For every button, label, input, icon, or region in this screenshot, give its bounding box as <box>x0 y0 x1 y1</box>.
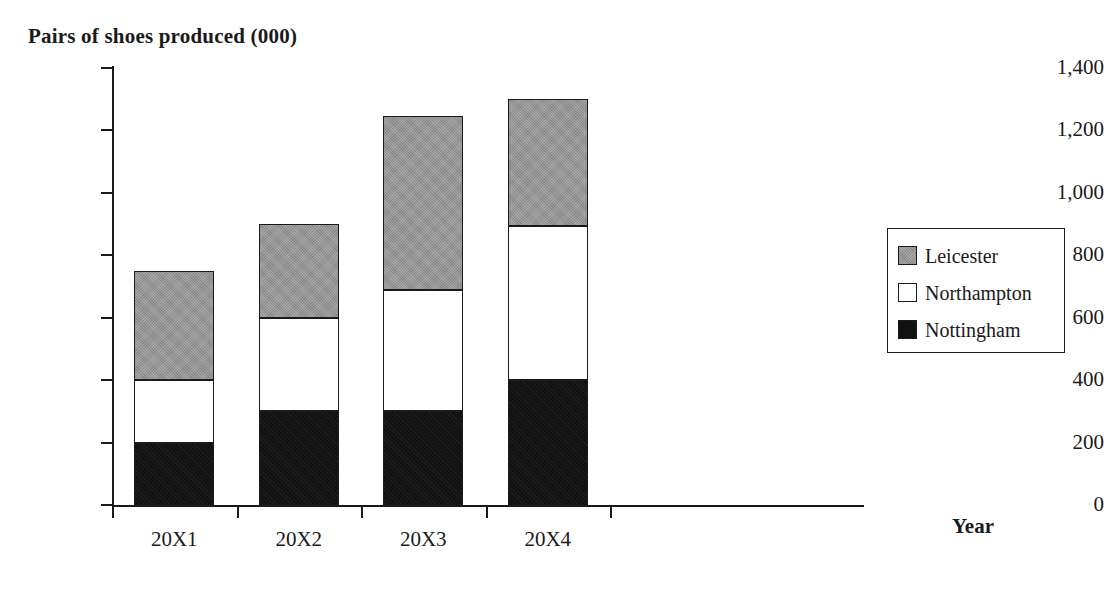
x-axis-tick <box>237 505 239 518</box>
y-axis-tick <box>101 254 112 256</box>
x-axis-tick <box>610 505 612 518</box>
y-axis-tick-label: 1,400 <box>1018 57 1104 78</box>
y-axis-tick-label: 1,200 <box>1018 119 1104 140</box>
bar-segment-leicester[interactable] <box>383 116 463 289</box>
legend-item-nottingham[interactable]: Nottingham <box>898 311 1064 348</box>
legend-item-label: Nottingham <box>925 320 1021 340</box>
x-axis-tick <box>361 505 363 518</box>
y-axis-tick <box>101 129 112 131</box>
y-axis-tick <box>101 504 112 506</box>
bar-stack[interactable] <box>134 68 214 505</box>
bar-segment-northampton[interactable] <box>259 318 339 412</box>
legend-item-label: Northampton <box>925 283 1032 303</box>
bar-segment-leicester[interactable] <box>508 99 588 225</box>
legend-item-label: Leicester <box>925 246 998 266</box>
bar-stack[interactable] <box>508 68 588 505</box>
bar-segment-nottingham[interactable] <box>259 411 339 505</box>
y-axis-tick <box>101 379 112 381</box>
bar-stack[interactable] <box>383 68 463 505</box>
stacked-bar-chart: Pairs of shoes produced (000) 0200400600… <box>0 0 1104 591</box>
y-axis-tick-label: 400 <box>1018 369 1104 390</box>
y-axis-tick <box>101 442 112 444</box>
bar-segment-northampton[interactable] <box>383 290 463 412</box>
x-axis-tick <box>112 505 114 518</box>
x-axis-category-label: 20X3 <box>361 527 486 552</box>
bar-segment-northampton[interactable] <box>134 380 214 442</box>
x-axis-tick <box>486 505 488 518</box>
y-axis-tick-label: 0 <box>1018 494 1104 515</box>
y-axis-tick <box>101 317 112 319</box>
x-axis-line <box>112 505 864 507</box>
x-axis-category-label: 20X1 <box>112 527 237 552</box>
x-axis-title: Year <box>952 514 994 539</box>
bar-segment-northampton[interactable] <box>508 226 588 381</box>
y-axis-tick-label: 200 <box>1018 432 1104 453</box>
white-swatch-icon <box>898 283 917 302</box>
legend-item-leicester[interactable]: Leicester <box>898 237 1064 274</box>
bar-segment-leicester[interactable] <box>134 271 214 380</box>
chart-title: Pairs of shoes produced (000) <box>28 24 297 49</box>
x-axis-category-label: 20X4 <box>486 527 611 552</box>
y-axis-tick <box>101 67 112 69</box>
bar-segment-nottingham[interactable] <box>383 411 463 505</box>
gray-swatch-icon <box>898 246 917 265</box>
y-axis-tick <box>101 192 112 194</box>
y-axis-line <box>112 66 114 507</box>
y-axis-tick-label: 1,000 <box>1018 182 1104 203</box>
legend: Leicester Northampton Nottingham <box>887 228 1065 353</box>
black-swatch-icon <box>898 320 917 339</box>
bar-segment-leicester[interactable] <box>259 224 339 318</box>
legend-item-northampton[interactable]: Northampton <box>898 274 1064 311</box>
bar-stack[interactable] <box>259 68 339 505</box>
bar-segment-nottingham[interactable] <box>508 380 588 505</box>
bar-segment-nottingham[interactable] <box>134 443 214 505</box>
x-axis-category-label: 20X2 <box>237 527 362 552</box>
